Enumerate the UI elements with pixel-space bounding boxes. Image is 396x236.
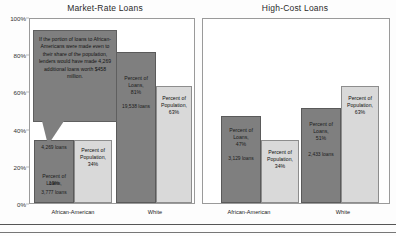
bar-label-highcost-aa-loans: Percent of Loans, [222, 127, 260, 141]
bar-market-white-percent-of-population[interactable]: Percent of Population, 63% [156, 86, 192, 203]
y-tick-0: 0% [17, 201, 26, 208]
bar-value-highcost-aa-loans: 47% [222, 141, 260, 148]
bar-label-highcost-white-population: Percent of Population, [342, 95, 378, 109]
y-tick-40: 40% [14, 126, 26, 133]
bar-highcost-white-percent-of-population[interactable]: Percent of Population, 63% [341, 86, 379, 203]
annotation-callout-tail [42, 121, 64, 145]
bar-value-market-white-population: 63% [157, 109, 191, 116]
bar-value-market-aa-loans-dup: 19% [35, 180, 73, 187]
annotation-callout-text: If the portion of loans to African-Ameri… [36, 36, 114, 80]
y-tick-60: 60% [14, 89, 26, 96]
bar-count-market-aa-loans-dup: 3,777 loans [35, 189, 73, 196]
bar-count-highcost-white-loans: 2,433 loans [302, 151, 340, 158]
bar-market-aa-percent-of-population[interactable]: Percent of Population, 34% [74, 140, 112, 203]
bar-market-aa-gap-extension: 4,269 loans Percent of Loans, 19% 3,777 … [34, 140, 74, 203]
x-label-right-white: White [300, 209, 386, 215]
y-tick-20: 20% [14, 163, 26, 170]
bar-value-highcost-aa-population: 34% [262, 163, 298, 170]
bar-market-white-percent-of-loans[interactable]: Percent of Loans, 81% 19,538 loans [116, 52, 156, 203]
bar-value-market-white-loans: 81% [117, 89, 155, 96]
figure-bottom-rule [0, 232, 396, 233]
x-label-right-african-american: African-American [206, 209, 292, 215]
bar-group-white-left: Percent of Loans, 81% 19,538 loans Perce… [116, 19, 192, 203]
bar-value-highcost-white-population: 63% [342, 109, 378, 116]
y-tick-100: 100% [10, 15, 26, 22]
bar-group-african-american-right: Percent of Loans, 47% 3,129 loans Percen… [221, 19, 301, 203]
bar-highcost-aa-percent-of-population[interactable]: Percent of Population, 34% [261, 140, 299, 203]
bar-label-highcost-aa-population: Percent of Population, [262, 149, 298, 163]
bar-value-highcost-white-loans: 51% [302, 135, 340, 142]
bar-highcost-aa-percent-of-loans[interactable]: Percent of Loans, 47% 3,129 loans [221, 116, 261, 203]
x-label-left-white: White [115, 209, 195, 215]
bar-label-highcost-white-loans: Percent of Loans, [302, 121, 340, 135]
bar-value-market-aa-population: 34% [75, 161, 111, 168]
y-tick-80: 80% [14, 52, 26, 59]
bar-highcost-white-percent-of-loans[interactable]: Percent of Loans, 51% 2,433 loans [301, 108, 341, 203]
bar-group-white-right: Percent of Loans, 51% 2,433 loans Percen… [301, 19, 383, 203]
y-axis: 100% 80% 60% 40% 20% 0% [0, 18, 28, 204]
panel-title-high-cost: High-Cost Loans [200, 3, 390, 13]
bar-count-highcost-aa-loans: 3,129 loans [222, 155, 260, 162]
bar-label-market-white-loans: Percent of Loans, [117, 75, 155, 89]
panel-title-market-rate: Market-Rate Loans [10, 3, 200, 13]
annotation-callout: If the portion of loans to African-Ameri… [33, 30, 117, 122]
plot-area-high-cost: Percent of Loans, 47% 3,129 loans Percen… [202, 18, 390, 204]
x-label-left-african-american: African-American [33, 209, 113, 215]
x-axis-line [0, 224, 396, 225]
bar-label-market-white-population: Percent of Population, [157, 95, 191, 109]
chart-figure: Market-Rate Loans High-Cost Loans 100% 8… [0, 0, 396, 236]
bar-count-market-white-loans: 19,538 loans [117, 103, 155, 110]
bar-label-market-aa-population: Percent of Population, [75, 147, 111, 161]
